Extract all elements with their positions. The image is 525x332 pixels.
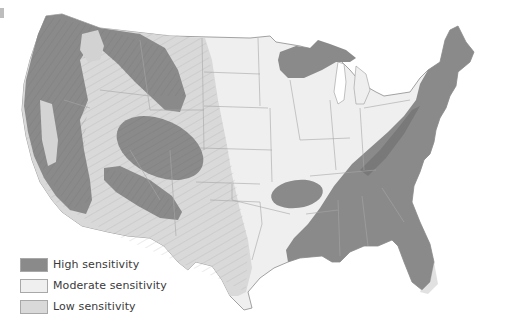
moderate-sensitivity-swatch [20, 279, 48, 293]
map-legend: High sensitivity Moderate sensitivity Lo… [20, 254, 167, 317]
legend-item-moderate: Moderate sensitivity [20, 275, 167, 296]
legend-label: Moderate sensitivity [53, 279, 167, 292]
legend-label: Low sensitivity [53, 300, 136, 313]
legend-item-high: High sensitivity [20, 254, 167, 275]
low-sensitivity-swatch [20, 300, 48, 314]
legend-label: High sensitivity [53, 258, 139, 271]
legend-item-low: Low sensitivity [20, 296, 167, 317]
high-sensitivity-swatch [20, 258, 48, 272]
